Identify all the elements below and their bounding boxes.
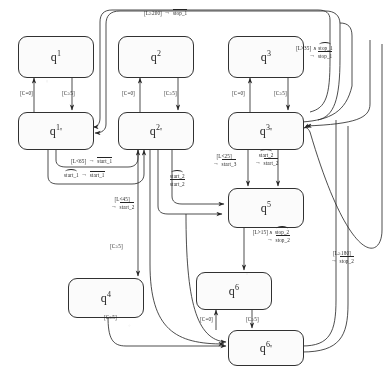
state-q1-prime[interactable]: q1' [18,112,94,150]
transition-start2-q4: [L<45] → start_2 [110,196,134,210]
transition-start2-q5: start_2 start_2 [170,172,185,187]
transition-stop1-top-event: stop_1 [173,9,187,17]
transition-stop2-far: [L≥180] → stop_2 [330,250,354,264]
state-q3-prime[interactable]: q3' [228,112,304,150]
transition-start3: [L<25] → start_3 [212,153,236,167]
transition-start1-b-guard: start_1 [64,171,79,179]
arrow-icon: → [266,236,274,242]
transition-stop2-q5-out: stop_2 [276,236,290,244]
guard-q2p-q4: [C≥5] [110,243,123,250]
state-q6-label: q6 [229,283,239,299]
state-q5-label: q5 [261,200,271,216]
state-q4-label: q4 [101,290,111,306]
state-q2-prime[interactable]: q2' [118,112,194,150]
arrow-icon: → [163,9,171,15]
arrow-icon: → [110,203,118,209]
transition-stop1-right-guard: [L>35] ∧ [296,45,317,51]
arrow-icon: → [308,52,316,58]
state-q5[interactable]: q5 [228,188,304,228]
state-q1[interactable]: q1 [18,36,94,78]
transition-start1-a-guard: [L<65] [71,158,86,164]
transition-stop2-far-event: stop_2 [340,257,354,265]
transition-stop1-right-out: stop_1 [318,52,332,60]
transition-start1-b: start_1 → start_1 [64,171,105,179]
state-q1-label: q1 [51,49,61,65]
edge-q1p-start1-loop2 [48,148,144,184]
arrow-icon: → [80,171,88,177]
transition-start1-a: [L<65] → start_1 [71,157,112,165]
edge-q6p-up-right2 [302,126,348,352]
state-q3[interactable]: q3 [228,36,304,78]
transition-stop1-top-guard: [L≥200] [144,10,162,16]
guard-q2-q2p: [C≥5] [164,90,177,97]
transition-start2-q3p: start_2 → start_2 [254,151,278,166]
arrow-icon: → [212,160,220,166]
state-q2-label: q2 [151,49,161,65]
arrow-icon: → [88,157,96,163]
state-q6-prime[interactable]: q6' [228,330,304,366]
guard-q4-q6p: [C≥5] [104,314,117,321]
transition-start2-q4-event: start_2 [120,203,135,211]
guard-q6p-q6: [C=0] [200,316,213,323]
state-q6[interactable]: q6 [196,272,272,310]
transition-stop2-q5: [L>15] ∧ stop_2 → stop_2 [252,228,290,243]
state-q3-label: q3 [261,49,271,65]
arrow-icon: → [254,159,262,165]
transition-start3-event: start_3 [222,160,237,168]
edge-q3p-right-up [302,23,352,122]
state-q1-prime-label: q1' [50,123,63,139]
state-q6-prime-label: q6' [260,340,273,356]
transition-start2-q5-event: start_2 [170,180,185,188]
transition-stop1-right: [L>35] ∧ stop_1 → stop_1 [296,44,333,59]
edge-q6p-up-right [302,120,336,346]
guard-q2p-q2: [C=0] [122,90,135,97]
state-q3-prime-label: q3' [260,123,273,139]
guard-q3p-q3: [C=0] [232,90,245,97]
arrow-icon: → [330,257,338,263]
transition-stop2-q5-guard: [L>15] ∧ [253,229,274,235]
transition-stop1-top: [L≥200] → stop_1 [144,9,187,17]
transition-start1-b-event: start_1 [90,171,105,179]
state-q4[interactable]: q4 [68,278,144,318]
guard-q3-q3p: [C≥5] [274,90,287,97]
state-q2-prime-label: q2' [150,123,163,139]
guard-q1-q1p: [C≥5] [62,90,75,97]
diagram-canvas: q1 q2 q3 q1' q2' q3' q5 q4 q6 q6' [C=0] … [0,0,392,370]
transition-start2-q3p-event: start_2 [264,159,279,167]
transition-start1-a-event: start_1 [97,157,112,165]
state-q2[interactable]: q2 [118,36,194,78]
guard-q1p-q1: [C=0] [20,90,33,97]
guard-q6-q6p: [C≥5] [246,316,259,323]
